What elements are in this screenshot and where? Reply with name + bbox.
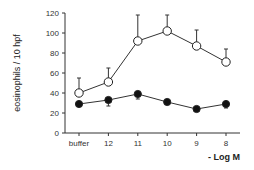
x-tick-label: buffer: [69, 139, 90, 148]
series-filled-circle: [75, 90, 229, 112]
x-tick-label: 9: [194, 139, 199, 148]
data-point: [134, 37, 142, 45]
y-tick-label: 40: [50, 89, 59, 98]
y-tick-label: 100: [46, 29, 60, 38]
data-point: [104, 78, 112, 86]
x-tick-label: 11: [134, 139, 143, 148]
series-layer: [75, 15, 230, 113]
x-tick-label: 12: [104, 139, 113, 148]
y-tick-label: 20: [50, 109, 59, 118]
line-chart: 020406080100120 buffer12111098 eosinophi…: [0, 0, 254, 170]
data-point: [163, 27, 171, 35]
y-axis: 020406080100120: [46, 9, 65, 138]
data-point: [192, 42, 200, 50]
series-open-circle: [75, 15, 230, 97]
y-tick-label: 80: [50, 49, 59, 58]
y-axis-label: eosinophils / 10 hpf: [12, 34, 22, 112]
data-point: [164, 98, 171, 105]
data-point: [105, 96, 112, 103]
x-tick-label: 10: [163, 139, 172, 148]
x-axis: buffer12111098: [65, 133, 240, 148]
data-point: [222, 100, 229, 107]
y-tick-label: 120: [46, 9, 60, 18]
data-point: [193, 105, 200, 112]
data-point: [75, 89, 83, 97]
y-tick-label: 60: [50, 69, 59, 78]
y-tick-label: 0: [55, 129, 60, 138]
data-point: [75, 100, 82, 107]
x-axis-label: - Log M: [208, 152, 240, 162]
data-point: [134, 90, 141, 97]
data-point: [222, 58, 230, 66]
x-tick-label: 8: [224, 139, 229, 148]
